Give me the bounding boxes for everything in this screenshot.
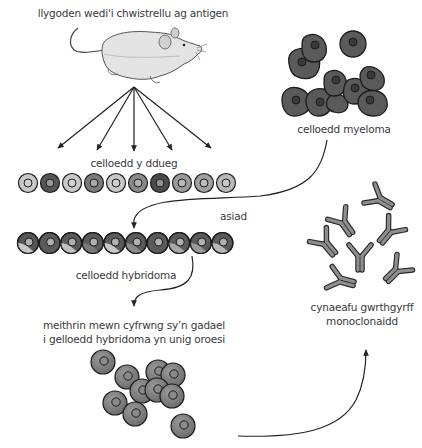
hybridoma-diagram: llygoden wedi'i chwistrellu ag antigen c…: [0, 0, 422, 448]
hybridoma-cell: [147, 233, 168, 254]
hybridoma-cell: [18, 233, 39, 254]
spleen-cells-label: celloedd y ddueg: [90, 156, 177, 170]
hybridoma-cell: [212, 233, 233, 254]
harvest-arrow: [238, 350, 366, 436]
spleen-cell: [173, 174, 192, 193]
spleen-cell: [63, 174, 82, 193]
hybridoma-cell: [190, 233, 211, 254]
spleen-cell: [19, 174, 38, 193]
culture-cell: [160, 384, 184, 408]
antibody: [373, 216, 406, 249]
antibodies-label-line1: cynaeafu gwrthgyrff: [311, 300, 414, 314]
diagram-canvas: [0, 0, 422, 448]
culture-cell: [123, 402, 147, 426]
hybridoma-cell: [82, 233, 103, 254]
hybridoma-cell: [61, 233, 82, 254]
spleen-cell: [217, 174, 236, 193]
cultured-hybridoma-cells: [91, 350, 195, 438]
antibody: [349, 245, 371, 270]
spleen-cell: [195, 174, 214, 193]
hybridoma-cell: [104, 233, 125, 254]
hybridoma-cells-label: celloedd hybridoma: [76, 268, 177, 282]
culture-cell: [171, 414, 195, 438]
antibody: [364, 184, 397, 216]
mouse-label: llygoden wedi'i chwistrellu ag antigen: [38, 6, 229, 20]
myeloma-cells-label: celloedd myeloma: [297, 122, 390, 136]
hybridoma-cell: [169, 233, 190, 254]
spleen-cell: [151, 174, 170, 193]
mouse-illustration: [71, 28, 207, 83]
antibody: [328, 207, 360, 240]
antibody: [327, 267, 357, 295]
culture-cell: [91, 350, 115, 374]
hybridoma-cell: [126, 233, 147, 254]
antibody: [310, 228, 343, 261]
injection-arrows: [58, 87, 211, 151]
monoclonal-antibodies: [310, 184, 413, 294]
fusion-label: asiad: [220, 209, 247, 223]
spleen-cell: [129, 174, 148, 193]
spleen-cell: [107, 174, 126, 193]
myeloma-cells-cluster: [282, 31, 387, 116]
spleen-cells-row: [19, 174, 236, 193]
culture-label-line2: i gelloedd hybridoma yn unig oroesi: [43, 332, 225, 346]
antibody: [379, 254, 412, 287]
spleen-cell: [85, 174, 104, 193]
antibodies-label-line2: monoclonaidd: [326, 314, 398, 328]
spleen-cell: [41, 174, 60, 193]
culture-label-line1: meithrin mewn cyfrwng sy’n gadael: [43, 318, 225, 332]
hybridoma-cell: [39, 233, 60, 254]
hybridoma-cells-row: [18, 233, 233, 254]
